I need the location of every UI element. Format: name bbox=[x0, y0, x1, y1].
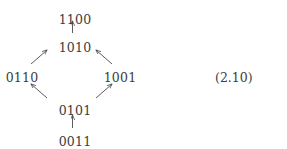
equation-number: (2.10) bbox=[215, 72, 253, 85]
node-0101: 0101 bbox=[59, 105, 92, 118]
node-0011: 0011 bbox=[59, 136, 92, 149]
node-1010: 1010 bbox=[59, 42, 92, 55]
node-0110: 0110 bbox=[6, 72, 39, 85]
edge-0101-to-0110-arrow-icon bbox=[31, 84, 47, 98]
node-1100: 1100 bbox=[59, 14, 92, 27]
edge-0101-to-1001-arrow-icon bbox=[96, 84, 112, 98]
node-1001: 1001 bbox=[104, 72, 137, 85]
poset-diagram-figure: 110010100110100101010011 (2.10) bbox=[0, 0, 287, 149]
edge-0110-to-1010-arrow-icon bbox=[31, 50, 47, 64]
edge-1001-to-1010-arrow-icon bbox=[96, 50, 112, 64]
